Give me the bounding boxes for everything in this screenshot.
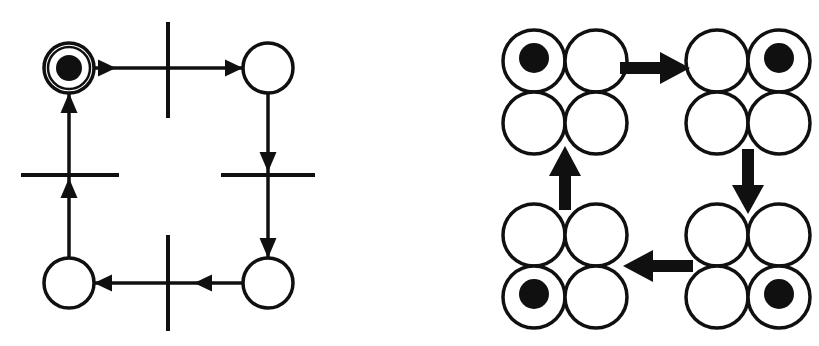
marking-circle-top-left: [686, 30, 748, 92]
token: [764, 43, 794, 73]
token: [519, 279, 549, 309]
place-bottom-left[interactable]: [44, 258, 94, 308]
place-bottom-right[interactable]: [243, 258, 293, 308]
marking-top-left[interactable]: [503, 30, 627, 154]
marking-bottom-right[interactable]: [686, 204, 810, 328]
arc-transition-right-to-place-bottom-right: [260, 175, 277, 258]
place-top-right[interactable]: [243, 43, 293, 93]
edge-top-left-to-top-right[interactable]: [620, 52, 690, 84]
edge-bottom-left-to-top-left[interactable]: [549, 146, 581, 210]
place-top-left[interactable]: [44, 43, 94, 93]
marking-circle-bottom-left: [686, 266, 748, 328]
marking-circle-bottom-right: [748, 92, 810, 154]
arc-transition-top-to-place-top-right: [170, 60, 243, 77]
token: [56, 55, 82, 81]
token: [764, 279, 794, 309]
arc-transition-bottom-to-place-bottom-left: [94, 275, 166, 292]
edge-top-right-to-bottom-right[interactable]: [732, 149, 764, 214]
arc-place-top-left-to-transition-top: [94, 60, 166, 77]
marking-top-right[interactable]: [686, 30, 810, 154]
marking-circle-top-left: [503, 204, 565, 266]
arc-place-bottom-left-to-transition-left: [61, 175, 78, 258]
edge-bottom-right-to-bottom-left[interactable]: [623, 250, 693, 282]
marking-circle-top-left: [686, 204, 748, 266]
marking-circle-top-right: [748, 204, 810, 266]
marking-circle-top-right: [565, 204, 627, 266]
token: [519, 43, 549, 73]
marking-circle-bottom-right: [565, 266, 627, 328]
arc-place-top-right-to-transition-right: [260, 93, 277, 175]
figure-root: [0, 0, 819, 346]
marking-circle-bottom-right: [565, 92, 627, 154]
marking-circle-bottom-left: [503, 92, 565, 154]
arc-place-bottom-right-to-transition-bottom: [170, 275, 243, 292]
petri-net-diagram: [0, 0, 819, 346]
marking-circle-top-right: [565, 30, 627, 92]
marking-circle-bottom-left: [686, 92, 748, 154]
arc-transition-left-to-place-top-left: [61, 93, 78, 175]
marking-bottom-left[interactable]: [503, 204, 627, 328]
